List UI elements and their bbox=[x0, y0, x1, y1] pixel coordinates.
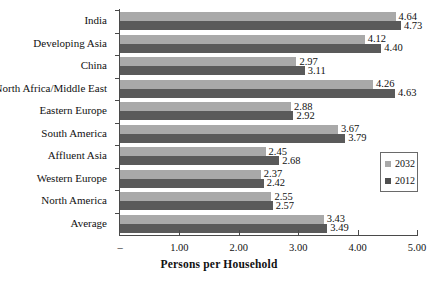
bar-2032 bbox=[120, 102, 291, 111]
x-axis-tick-label: 4.00 bbox=[336, 242, 380, 253]
bar-2012 bbox=[120, 224, 327, 233]
legend-swatch-icon-2012 bbox=[385, 178, 391, 184]
y-axis-tick bbox=[115, 55, 120, 56]
bar-value-label: 2.57 bbox=[276, 201, 294, 211]
bar-2012 bbox=[120, 111, 293, 120]
bar-2032 bbox=[120, 12, 396, 21]
bar-2012 bbox=[120, 179, 264, 188]
y-axis-tick bbox=[115, 145, 120, 146]
y-axis-tick bbox=[115, 10, 120, 11]
x-axis-tick bbox=[417, 230, 418, 235]
category-label: Developing Asia bbox=[33, 38, 107, 49]
bar-2012 bbox=[120, 134, 345, 143]
category-label: North America bbox=[41, 195, 107, 206]
x-axis-tick bbox=[179, 230, 180, 235]
category-label: Western Europe bbox=[37, 173, 107, 184]
y-axis-tick bbox=[115, 168, 120, 169]
bar-2032 bbox=[120, 147, 266, 156]
category-label: Eastern Europe bbox=[40, 105, 108, 116]
category-axis-labels: IndiaDeveloping AsiaChinaNorth Africa/Mi… bbox=[0, 10, 112, 235]
legend-label-2012: 2012 bbox=[395, 176, 415, 186]
bar-2032 bbox=[120, 215, 324, 224]
bar-value-label: 3.49 bbox=[330, 223, 348, 233]
bar-value-label: 3.11 bbox=[308, 66, 326, 76]
bar-2032 bbox=[120, 80, 373, 89]
bar-2012 bbox=[120, 66, 305, 75]
legend-item-2032: 2032 bbox=[385, 157, 412, 170]
plot-area: 4.644.734.124.402.973.114.264.632.882.92… bbox=[120, 10, 417, 235]
x-axis-tick bbox=[298, 230, 299, 235]
household-size-bar-chart: IndiaDeveloping AsiaChinaNorth Africa/Mi… bbox=[0, 0, 438, 281]
bar-2032 bbox=[120, 35, 365, 44]
category-label: Average bbox=[71, 218, 107, 229]
chart-legend: 2032 2012 bbox=[380, 152, 418, 192]
bar-2012 bbox=[120, 21, 401, 30]
bar-2012 bbox=[120, 89, 395, 98]
legend-label-2032: 2032 bbox=[395, 159, 415, 169]
bar-value-label: 4.40 bbox=[384, 43, 402, 53]
bar-value-label: 2.92 bbox=[296, 111, 314, 121]
legend-swatch-icon-2032 bbox=[385, 161, 391, 167]
x-axis-tick-label: – bbox=[98, 242, 142, 253]
bar-value-label: 2.42 bbox=[267, 178, 285, 188]
bar-value-label: 2.68 bbox=[282, 156, 300, 166]
category-label: South America bbox=[41, 128, 107, 139]
bar-value-label: 4.73 bbox=[404, 21, 422, 31]
y-axis-tick bbox=[115, 190, 120, 191]
category-label: Affluent Asia bbox=[48, 150, 107, 161]
category-label: China bbox=[81, 60, 107, 71]
x-axis-tick-label: 1.00 bbox=[157, 242, 201, 253]
bar-2032 bbox=[120, 192, 271, 201]
bar-2012 bbox=[120, 156, 279, 165]
bar-value-label: 3.79 bbox=[348, 133, 366, 143]
bar-2032 bbox=[120, 125, 338, 134]
x-axis-line bbox=[119, 235, 418, 236]
x-axis-tick-label: 5.00 bbox=[395, 242, 438, 253]
bar-2012 bbox=[120, 201, 273, 210]
bar-2012 bbox=[120, 44, 381, 53]
bar-value-label: 4.12 bbox=[368, 34, 386, 44]
bar-value-label: 4.63 bbox=[398, 88, 416, 98]
y-axis-tick bbox=[115, 78, 120, 79]
bar-2032 bbox=[120, 170, 261, 179]
x-axis-tick-label: 3.00 bbox=[276, 242, 320, 253]
x-axis-tick bbox=[358, 230, 359, 235]
bar-2032 bbox=[120, 57, 296, 66]
y-axis-tick bbox=[115, 123, 120, 124]
legend-item-2012: 2012 bbox=[385, 174, 412, 187]
x-axis-tick-label: 2.00 bbox=[217, 242, 261, 253]
bar-value-label: 4.26 bbox=[376, 79, 394, 89]
y-axis-tick bbox=[115, 213, 120, 214]
y-axis-tick bbox=[115, 100, 120, 101]
y-axis-tick bbox=[115, 33, 120, 34]
x-axis-tick bbox=[239, 230, 240, 235]
category-label: India bbox=[84, 15, 107, 26]
category-label: North Africa/Middle East bbox=[0, 83, 107, 94]
x-axis-title: Persons per Household bbox=[0, 258, 438, 270]
